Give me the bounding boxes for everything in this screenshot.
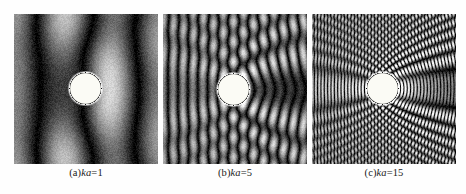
caption-value-b: 5 bbox=[247, 167, 252, 178]
panel-caption-b: (b)ka=5 bbox=[163, 167, 307, 178]
scattering-field-image-b bbox=[163, 14, 307, 164]
caption-value-a: 1 bbox=[97, 167, 102, 178]
scattering-field-image-c bbox=[312, 14, 456, 164]
scattering-panel-c bbox=[312, 14, 456, 164]
caption-value-c: 15 bbox=[393, 167, 404, 178]
caption-symbol-b: ka bbox=[231, 167, 241, 178]
caption-symbol-c: ka bbox=[377, 167, 387, 178]
caption-prefix-a: (a) bbox=[69, 167, 81, 178]
caption-prefix-c: (c) bbox=[365, 167, 377, 178]
scattering-panel-b bbox=[163, 14, 307, 164]
panel-caption-c: (c)ka=15 bbox=[312, 167, 456, 178]
scattering-field-image-a bbox=[14, 14, 158, 164]
wave-scattering-figure: (a)ka=1 (b)ka=5 (c)ka=15 bbox=[0, 0, 466, 194]
caption-symbol-a: ka bbox=[81, 167, 91, 178]
scattering-panel-a bbox=[14, 14, 158, 164]
panel-caption-a: (a)ka=1 bbox=[14, 167, 158, 178]
caption-prefix-b: (b) bbox=[218, 167, 231, 178]
